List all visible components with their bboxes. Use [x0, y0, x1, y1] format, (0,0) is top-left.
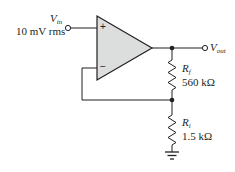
rf-subscript: f: [189, 68, 191, 76]
opamp-plus-symbol: +: [100, 22, 106, 32]
vout-symbol: V: [210, 41, 217, 53]
ground-icon: [165, 152, 179, 159]
vin-value: 10 mV rms: [16, 26, 65, 37]
vin-symbol: V: [50, 12, 57, 24]
ri-value: 1.5 kΩ: [182, 131, 212, 142]
rf-symbol: R: [182, 62, 189, 74]
feedback-wire: [82, 68, 172, 100]
ri-label: Ri: [182, 117, 191, 130]
output-terminal: [202, 45, 207, 50]
ri-resistor-icon: [168, 115, 176, 145]
input-terminal: [65, 25, 70, 30]
vout-label: Vout: [210, 42, 226, 55]
opamp-minus-symbol: −: [100, 62, 106, 72]
ri-symbol: R: [182, 116, 189, 128]
rf-value: 560 kΩ: [182, 77, 215, 88]
ri-subscript: i: [189, 122, 191, 130]
rf-label: Rf: [182, 63, 191, 76]
rf-resistor-icon: [168, 60, 176, 90]
vout-subscript: out: [217, 47, 226, 55]
